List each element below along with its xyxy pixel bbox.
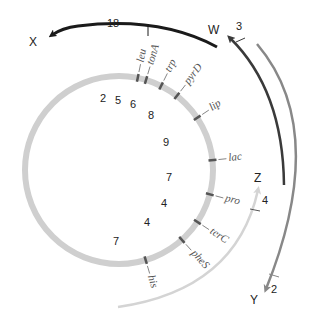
gene-label-pro: pro (223, 191, 242, 207)
arc-Y-transfer-arrow (257, 44, 296, 289)
interval-distance: 9 (163, 136, 169, 148)
arc-Y-distance: 2 (271, 283, 277, 295)
arc-W-distance: 3 (236, 20, 242, 32)
gene-marker-lac (209, 160, 217, 161)
interval-distance: 8 (148, 109, 154, 121)
gene-label-phes: pheS (189, 246, 213, 271)
gene-leader-line (216, 196, 224, 198)
arc-W-tick (236, 38, 245, 42)
interval-distance: 5 (115, 94, 121, 106)
interval-distance: 4 (161, 197, 167, 209)
arc-W-label: W (208, 23, 220, 37)
genetic-map: leutonAtrppyrDliplacproterCpheShis 25689… (0, 0, 322, 325)
gene-leader-line (164, 73, 168, 80)
arc-X-distance: 18 (107, 17, 119, 29)
gene-label-his: his (146, 273, 161, 289)
interval-distance: 7 (166, 171, 172, 183)
gene-leader-line (202, 225, 209, 229)
map-distances: 256897447 (100, 92, 172, 247)
gene-label-pyrd: pyrD (180, 61, 204, 87)
gene-label-tona: tonA (143, 42, 161, 66)
arc-X-label: X (29, 35, 37, 49)
gene-leader-line (147, 266, 149, 274)
gene-leader-line (218, 159, 226, 160)
arc-Z-transfer-arrow (118, 190, 258, 307)
interval-distance: 2 (100, 92, 106, 104)
gene-label-trp: trp (162, 56, 179, 73)
arc-W-transfer-arrow (230, 38, 284, 185)
gene-leader-line (181, 85, 186, 91)
arc-X-transfer-arrow (52, 24, 217, 47)
gene-label-lac: lac (228, 150, 243, 163)
arc-Y-label: Y (250, 293, 258, 307)
interval-distance: 4 (144, 216, 150, 228)
gene-label-terc: terC (208, 224, 231, 245)
interval-distance: 6 (130, 98, 136, 110)
arc-Z-distance: 4 (262, 194, 268, 206)
interval-distance: 7 (113, 235, 119, 247)
gene-marker-leu (137, 74, 139, 82)
gene-leader-line (139, 64, 141, 72)
gene-leader-line (148, 67, 150, 75)
arc-Z-label: Z (254, 171, 261, 185)
gene-leader-line (186, 244, 191, 250)
gene-leader-line (202, 110, 209, 114)
